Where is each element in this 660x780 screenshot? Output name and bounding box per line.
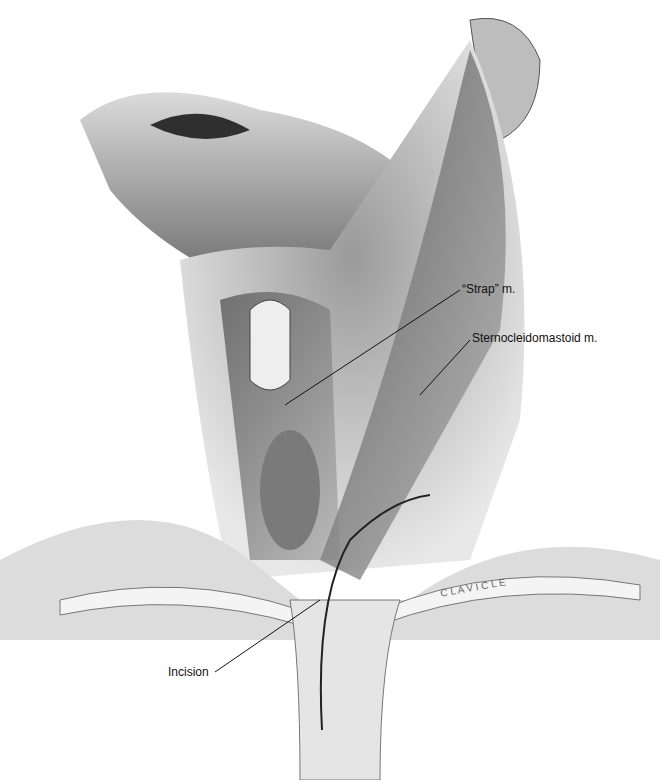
anatomy-illustration — [0, 0, 660, 780]
thyroid-cartilage — [250, 300, 290, 390]
sternum — [290, 600, 400, 780]
strap-label: “Strap” m. — [462, 282, 515, 296]
scm-label: Sternocleidomastoid m. — [472, 331, 597, 345]
incision-label: Incision — [168, 665, 209, 679]
thyroid-gland — [260, 430, 320, 550]
